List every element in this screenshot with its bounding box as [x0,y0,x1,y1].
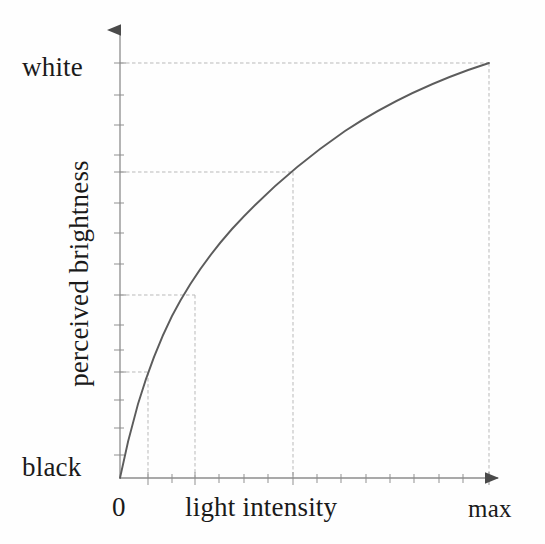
y-axis-title: perceived brightness [64,149,95,399]
guide-lines-horizontal [120,63,489,372]
y-axis-top-label: white [22,52,83,83]
brightness-response-curve [120,63,489,478]
x-axis-title: light intensity [185,492,337,523]
x-axis-start-label: 0 [112,492,126,523]
y-axis-bottom-label: black [22,452,81,483]
x-axis-end-label: max [468,495,512,523]
brightness-response-figure: white black perceived brightness 0 light… [0,0,545,544]
